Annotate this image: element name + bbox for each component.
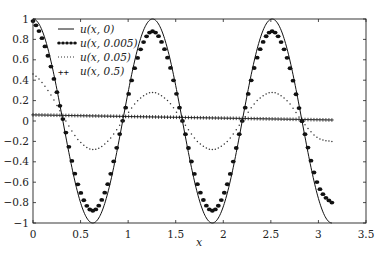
filled-dots-swatch-icon <box>57 41 77 44</box>
x-tick-label: 2.5 <box>263 228 280 240</box>
x-tick-label: 0 <box>30 228 37 240</box>
legend-label: u(x, 0.05) <box>80 51 131 63</box>
y-tick-label: −0.2 <box>4 135 30 147</box>
legend-item-u-x-0-05: u(x, 0.05) <box>58 51 131 63</box>
y-tick-label: 0.6 <box>12 53 29 65</box>
x-tick-label: 3.5 <box>358 228 375 240</box>
y-tick-label: 0 <box>22 115 29 127</box>
y-tick-label: −0.6 <box>4 176 30 188</box>
y-tick-label: 0.8 <box>12 33 29 45</box>
x-tick-label: 0.5 <box>72 228 89 240</box>
legend-item-u-x-0-005: u(x, 0.005) <box>57 37 137 49</box>
x-tick-label: 1.5 <box>167 228 184 240</box>
legend-item-u-x-0-5: ++ u(x, 0.5) <box>58 65 124 77</box>
legend-label: u(x, 0.005) <box>80 37 138 49</box>
legend: u(x, 0) u(x, 0.005) u(x, 0.05) ++ u(x, 0… <box>57 23 137 77</box>
y-tick-label: −0.4 <box>4 155 30 167</box>
x-axis-label: x <box>196 236 203 249</box>
y-tick-label: −0.8 <box>4 196 30 208</box>
legend-label: u(x, 0) <box>80 23 114 35</box>
series-u-x-0-05-dots <box>32 73 332 150</box>
y-tick-label: 1 <box>22 13 29 25</box>
line-chart: 00.511.522.533.5 10.80.60.40.20−0.2−0.4−… <box>0 0 383 254</box>
y-tick-label: 0.2 <box>12 94 29 106</box>
y-tick-label: 0.4 <box>12 74 29 86</box>
x-tick-label: 2 <box>220 228 227 240</box>
plus-markers-swatch-icon: ++ <box>58 67 69 77</box>
legend-label: u(x, 0.5) <box>80 65 124 77</box>
plot-curves <box>31 19 335 223</box>
y-tick-label: −1 <box>14 217 29 229</box>
legend-item-u-x-0: u(x, 0) <box>58 23 114 35</box>
x-tick-label: 1 <box>125 228 132 240</box>
x-tick-label: 3 <box>315 228 322 240</box>
